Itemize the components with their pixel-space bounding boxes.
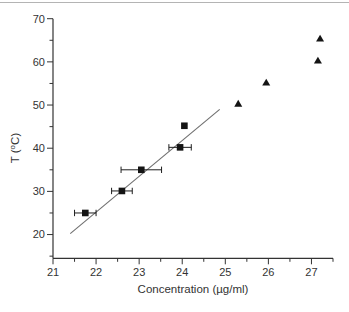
x-tick-label: 25: [219, 266, 231, 278]
y-tick-label: 50: [33, 99, 45, 111]
triangle-marker: [234, 100, 242, 107]
series-triangles: [234, 35, 324, 107]
y-tick-label: 20: [33, 228, 45, 240]
square-marker: [177, 144, 184, 151]
x-tick-label: 22: [90, 266, 102, 278]
y-tick-label: 70: [33, 13, 45, 25]
x-axis-title: Concentration (µg/ml): [138, 283, 249, 295]
square-marker: [138, 166, 145, 173]
x-tick-labels: 21222324252627: [47, 266, 318, 278]
x-ticks: [53, 258, 333, 264]
scatter-plot: 21222324252627203040506070Concentration …: [0, 0, 349, 312]
y-tick-label: 30: [33, 185, 45, 197]
y-tick-labels: 203040506070: [33, 13, 45, 241]
x-tick-label: 23: [133, 266, 145, 278]
y-tick-label: 40: [33, 142, 45, 154]
square-marker: [82, 210, 89, 217]
axes: [53, 19, 333, 259]
x-error-bars: [75, 144, 192, 216]
square-marker: [119, 188, 126, 195]
y-ticks: [47, 19, 53, 256]
x-tick-label: 27: [305, 266, 317, 278]
triangle-marker: [262, 79, 270, 86]
x-tick-label: 21: [47, 266, 59, 278]
x-tick-label: 24: [176, 266, 188, 278]
x-tick-label: 26: [262, 266, 274, 278]
y-tick-label: 60: [33, 56, 45, 68]
chart-figure: 21222324252627203040506070Concentration …: [0, 0, 349, 312]
triangle-marker: [316, 35, 324, 42]
triangle-marker: [314, 57, 322, 64]
y-axis-title: T (oC): [8, 133, 21, 164]
fit-line: [70, 109, 219, 233]
square-marker: [181, 122, 188, 129]
